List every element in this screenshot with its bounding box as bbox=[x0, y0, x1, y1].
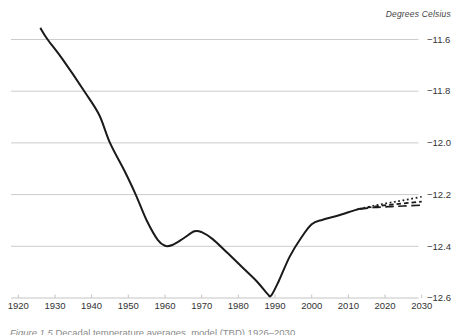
y-axis-labels: −11.6−11.8−12.0−12.2−12.4−12.6 bbox=[427, 34, 451, 304]
x-tick-label: 1970 bbox=[191, 300, 212, 311]
x-axis-ticks bbox=[18, 295, 421, 299]
series-historical-decadal-temperature bbox=[40, 28, 359, 297]
x-tick-label: 1950 bbox=[118, 300, 139, 311]
x-tick-label: 1930 bbox=[44, 300, 65, 311]
x-tick-label: 1990 bbox=[264, 300, 285, 311]
y-tick-label: −12.0 bbox=[427, 137, 451, 148]
x-tick-label: 2000 bbox=[301, 300, 322, 311]
x-tick-label: 1980 bbox=[228, 300, 249, 311]
y-tick-label: −12.6 bbox=[427, 292, 451, 303]
x-axis-labels: 1920193019401950196019701980199020002010… bbox=[8, 300, 433, 311]
y-tick-label: −11.8 bbox=[427, 85, 450, 96]
x-tick-label: 1960 bbox=[154, 300, 175, 311]
x-tick-label: 2010 bbox=[338, 300, 359, 311]
x-tick-label: 1920 bbox=[8, 300, 29, 311]
gridlines bbox=[11, 40, 419, 299]
temperature-line-chart-figure: Degrees Celsius 192019301940195019601970… bbox=[0, 0, 457, 335]
x-tick-label: 2020 bbox=[374, 300, 395, 311]
figure-caption-text: Decadal temperature averages, model (TBD… bbox=[55, 327, 295, 335]
figure-caption: Figure 1.5 Decadal temperature averages,… bbox=[10, 327, 450, 335]
y-tick-label: −11.6 bbox=[427, 34, 450, 45]
line-chart-canvas: 1920193019401950196019701980199020002010… bbox=[0, 0, 457, 335]
series-lines bbox=[40, 28, 421, 297]
figure-caption-label: Figure 1.5 bbox=[10, 327, 53, 335]
x-tick-label: 1940 bbox=[81, 300, 102, 311]
y-tick-label: −12.2 bbox=[427, 189, 451, 200]
y-tick-label: −12.4 bbox=[427, 241, 451, 252]
